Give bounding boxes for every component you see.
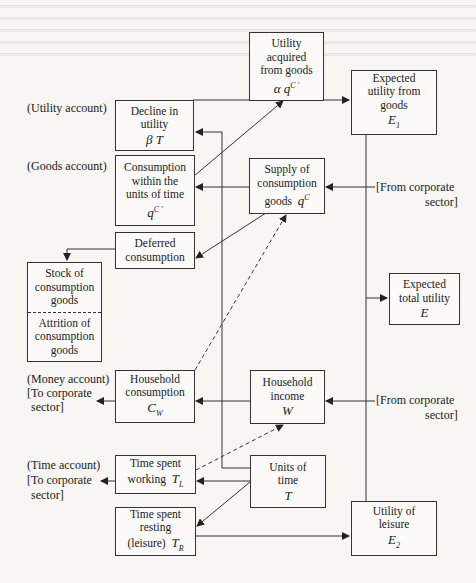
node-decline-utility: Decline in utility β T <box>115 100 194 151</box>
node-text: Time spent <box>130 457 181 471</box>
node-text: Utility of <box>373 505 416 519</box>
node-text: total utility <box>399 292 450 306</box>
node-symbol: CW <box>147 400 162 421</box>
node-deferred-consumption: Deferred consumption <box>115 232 195 269</box>
node-text: resting <box>140 521 171 535</box>
edge-time-to-resting <box>197 482 250 526</box>
node-text: Deferred <box>135 237 176 251</box>
node-text: Expected <box>373 72 416 86</box>
node-household-consumption: Household consumption CW <box>115 370 195 423</box>
node-units-time: Units of time T <box>250 455 326 508</box>
node-text: Units of <box>269 461 306 475</box>
node-text: income <box>271 390 305 404</box>
edge-hh-consumption-to-supply <box>195 215 286 370</box>
node-text: time <box>278 474 298 488</box>
node-text: consumption <box>257 177 316 191</box>
time-to-corporate-label-1: [To corporate <box>27 473 92 487</box>
node-utility-acquired: Utility acquired from goods α qC ′ <box>249 32 324 101</box>
node-text: within the <box>132 175 178 189</box>
node-text: Expected <box>403 278 446 292</box>
node-household-income: Household income W <box>250 370 325 424</box>
node-text: Household <box>130 373 180 387</box>
node-text: acquired <box>267 51 307 65</box>
node-symbol: α qC ′ <box>274 78 300 96</box>
node-stock-attrition: Stock of consumption goods Attrition of … <box>27 262 102 362</box>
edge-deferred-to-stock <box>67 249 115 260</box>
node-text: (leisure) TR <box>127 535 183 556</box>
node-text: goods <box>51 294 78 308</box>
node-text: Attrition of <box>38 317 90 331</box>
edge-time-to-decline <box>196 132 250 468</box>
node-attrition-goods: Attrition of consumption goods <box>28 313 101 362</box>
node-text: from goods <box>260 64 313 78</box>
time-account-label: (Time account) <box>27 458 100 472</box>
node-expected-utility-goods: Expected utility from goods E1 <box>351 70 437 135</box>
node-text: goods qC <box>264 190 309 209</box>
node-symbol: β T <box>146 132 163 147</box>
node-text: consumption <box>125 251 184 265</box>
node-consumption-within: Consumption within the units of time qC … <box>115 155 195 226</box>
node-text: utility from <box>368 85 421 99</box>
node-text: working TL <box>128 471 184 492</box>
goods-account-label: (Goods account) <box>27 159 107 173</box>
utility-account-label: (Utility account) <box>27 101 107 115</box>
node-text: leisure <box>379 518 410 532</box>
node-text: units of time <box>126 188 184 202</box>
node-text: Time spent <box>130 508 181 522</box>
node-text: Decline in <box>131 105 179 119</box>
node-text: Supply of <box>264 163 309 177</box>
node-time-resting: Time spent resting (leisure) TR <box>115 507 196 556</box>
node-text: utility <box>141 118 168 132</box>
node-text: consumption <box>35 281 94 295</box>
node-text: Household <box>263 376 313 390</box>
edge-supply-to-deferred <box>196 213 266 258</box>
node-symbol: E1 <box>388 112 400 133</box>
money-to-corporate-label-2: sector] <box>31 400 64 414</box>
node-text: Consumption <box>124 161 186 175</box>
node-symbol: qC ′ <box>147 202 163 220</box>
node-stock-goods: Stock of consumption goods <box>28 263 101 312</box>
from-corporate-goods-label-1: [From corporate <box>376 180 454 194</box>
node-text: Stock of <box>45 267 84 281</box>
node-symbol: T <box>284 488 291 503</box>
node-text: Utility <box>271 37 301 51</box>
node-expected-total-utility: Expected total utility E <box>389 273 460 325</box>
node-text: consumption <box>125 386 184 400</box>
node-text: consumption <box>35 330 94 344</box>
node-text: goods <box>51 344 78 358</box>
time-to-corporate-label-2: sector] <box>31 488 64 502</box>
node-utility-leisure: Utility of leisure E2 <box>351 501 437 556</box>
from-corporate-income-label-2: sector] <box>425 408 458 422</box>
node-time-working: Time spent working TL <box>115 455 196 494</box>
money-account-label: (Money account) <box>27 372 109 386</box>
node-symbol: W <box>282 403 293 418</box>
from-corporate-income-label-1: [From corporate <box>376 393 454 407</box>
node-symbol: E <box>421 305 429 320</box>
from-corporate-goods-label-2: sector] <box>425 195 458 209</box>
node-text: goods <box>380 99 407 113</box>
money-to-corporate-label-1: [To corporate <box>27 386 92 400</box>
node-symbol: E2 <box>388 532 400 553</box>
node-supply-goods: Supply of consumption goods qC <box>249 158 325 214</box>
